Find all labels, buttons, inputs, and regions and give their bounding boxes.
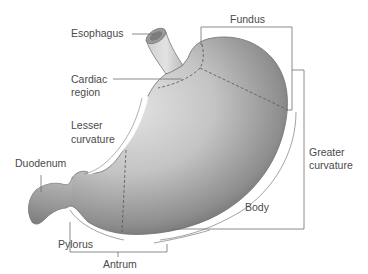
label-cardiac-line1: Cardiac bbox=[71, 73, 107, 85]
label-body: Body bbox=[245, 201, 269, 213]
label-duodenum: Duodenum bbox=[15, 157, 66, 169]
label-greater-line2: curvature bbox=[309, 159, 353, 171]
label-pylorus: Pylorus bbox=[58, 238, 93, 250]
label-lesser-line1: Lesser bbox=[71, 119, 103, 131]
label-lesser-line2: curvature bbox=[71, 133, 115, 145]
stomach-diagram: Esophagus Fundus Cardiac region Lesser c… bbox=[0, 0, 368, 274]
stomach-illustration bbox=[0, 0, 368, 274]
duodenum-shape bbox=[29, 178, 72, 224]
label-esophagus: Esophagus bbox=[71, 27, 124, 39]
label-antrum: Antrum bbox=[103, 258, 137, 270]
label-greater-line1: Greater bbox=[309, 146, 345, 158]
label-cardiac-line2: region bbox=[71, 86, 100, 98]
esophagus-tube bbox=[143, 25, 186, 74]
label-fundus: Fundus bbox=[230, 13, 265, 25]
